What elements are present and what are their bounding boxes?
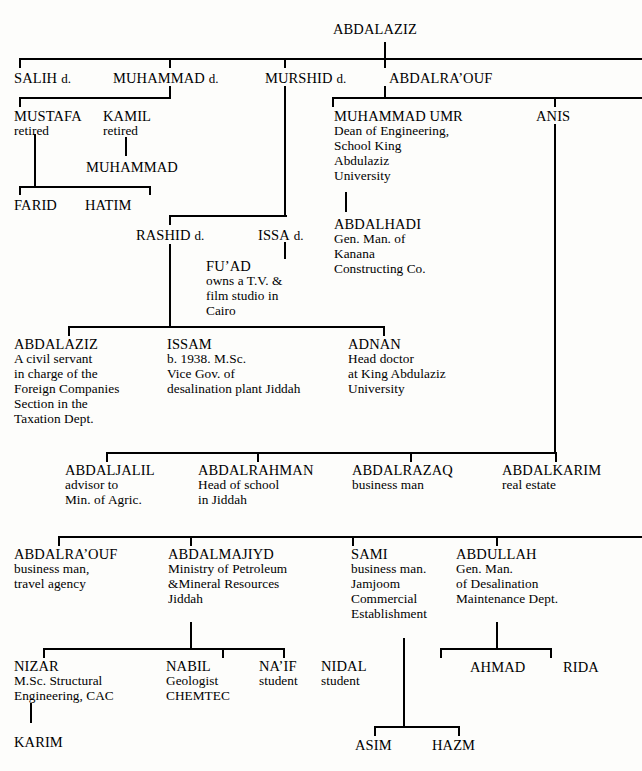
connector-mustafa-stem	[34, 134, 36, 186]
person-node-abdullah[interactable]: ABDULLAH Gen. Man. of Desalination Maint…	[456, 546, 558, 607]
connector-kamil-stem	[125, 137, 127, 156]
person-node-abdalaziz-g5[interactable]: ABDALAZIZ A civil servant in charge of t…	[14, 336, 119, 427]
person-node-abdaljalil[interactable]: ABDALJALIL advisor to Min. of Agric.	[65, 462, 155, 508]
connector-farid-drop	[19, 186, 21, 195]
person-description: advisor to Min. of Agric.	[65, 478, 155, 508]
connector-abdalraouf-g6-drop	[58, 536, 60, 546]
person-name: MURSHID	[265, 70, 333, 86]
person-node-fuad[interactable]: FU’AD owns a T.V. & film studio in Cairo	[206, 258, 282, 319]
connector-hazm-drop	[458, 726, 460, 736]
connector-murshid-stem	[284, 86, 286, 217]
person-name: NA’IF	[259, 658, 298, 674]
person-description: owns a T.V. & film studio in Cairo	[206, 274, 282, 319]
person-node-muhammad-g2[interactable]: MUHAMMAD d.	[113, 69, 219, 87]
connector-ahmad-rida-bar	[440, 648, 552, 650]
person-node-muhammad-umr[interactable]: MUHAMMAD UMR Dean of Engineering, School…	[334, 108, 463, 184]
person-name: MUHAMMAD UMR	[334, 108, 463, 124]
person-description: Gen. Man. of Desalination Maintenance De…	[456, 562, 558, 607]
person-description: retired	[103, 124, 151, 139]
person-node-abdalmajiyd[interactable]: ABDALMAJIYD Ministry of Petroleum &Miner…	[168, 546, 287, 607]
person-node-anis[interactable]: ANIS	[536, 108, 570, 124]
connector-nidal-drop	[283, 648, 285, 658]
person-node-abdalrazaq[interactable]: ABDALRAZAQ business man	[352, 462, 453, 493]
person-description: real estate	[502, 478, 601, 493]
person-name: ADNAN	[348, 336, 446, 352]
person-name: HAZM	[432, 737, 475, 753]
person-node-abdalraouf-g6[interactable]: ABDALRA’OUF business man, travel agency	[14, 546, 117, 592]
person-name: NABIL	[166, 658, 230, 674]
person-name: ABDALRA’OUF	[389, 70, 492, 86]
person-node-kamil[interactable]: KAMIL retired	[103, 108, 151, 139]
connector-rashid-stem	[169, 244, 171, 328]
person-description: A civil servant in charge of the Foreign…	[14, 352, 119, 426]
person-suffix: d.	[337, 71, 347, 86]
connector-gen2-bar	[19, 58, 642, 60]
person-name: ISSA	[258, 227, 290, 243]
connector-naif-drop	[222, 648, 224, 658]
person-name: RIDA	[563, 659, 599, 675]
person-node-asim[interactable]: ASIM	[355, 736, 392, 754]
connector-anis-stem	[554, 124, 556, 454]
person-description: Head doctor at King Abdulaziz University	[348, 352, 446, 397]
person-node-root[interactable]: ABDALAZIZ	[333, 20, 417, 38]
person-description: business man. Jamjoom Commercial Establi…	[351, 562, 427, 622]
person-name: SALIH	[14, 70, 57, 86]
connector-abdaljalil-drop	[106, 452, 108, 462]
person-name: ABDALAZIZ	[14, 336, 119, 352]
connector-muhammad-umr-drop	[332, 97, 334, 107]
person-node-hatim[interactable]: HATIM	[85, 196, 131, 214]
connector-rida-drop	[550, 648, 552, 658]
person-name: ABDALJALIL	[65, 462, 155, 478]
person-node-ahmad[interactable]: AHMAD	[470, 658, 525, 676]
connector-asim-hazm-bar	[374, 726, 460, 728]
connector-ahmad-drop	[440, 648, 442, 658]
person-description: Dean of Engineering, School King Abdulaz…	[334, 124, 463, 184]
person-name: ABDALRAZAQ	[352, 462, 453, 478]
person-node-abdalkarim[interactable]: ABDALKARIM real estate	[502, 462, 601, 493]
person-node-issa[interactable]: ISSA d.	[258, 226, 304, 244]
person-node-mustafa[interactable]: MUSTAFA retired	[14, 108, 82, 139]
person-name: ABDALRAHMAN	[198, 462, 314, 478]
person-name: ASIM	[355, 737, 392, 753]
person-name: KARIM	[14, 734, 63, 750]
person-node-muhammad-g4[interactable]: MUHAMMAD	[86, 158, 178, 176]
person-node-salih[interactable]: SALIH d.	[14, 69, 71, 87]
person-suffix: d.	[209, 71, 219, 86]
person-suffix: d.	[61, 71, 71, 86]
person-node-murshid[interactable]: MURSHID d.	[265, 69, 346, 87]
person-description: M.Sc. Structural Engineering, CAC	[14, 674, 114, 704]
person-node-farid[interactable]: FARID	[14, 196, 57, 214]
connector-gen5-bar	[68, 326, 385, 328]
person-name: FU’AD	[206, 258, 282, 274]
person-node-issam[interactable]: ISSAM b. 1938. M.Sc. Vice Gov. of desali…	[167, 336, 300, 397]
person-name: MUHAMMAD	[86, 159, 178, 175]
person-node-nizar[interactable]: NIZAR M.Sc. Structural Engineering, CAC	[14, 658, 114, 704]
person-node-nidal[interactable]: NIDAL student	[321, 658, 367, 689]
connector-abdalrahman-drop	[257, 452, 259, 462]
person-node-abdalrahman[interactable]: ABDALRAHMAN Head of school in Jiddah	[198, 462, 314, 508]
connector-mustafa-kamil-bar	[19, 97, 171, 99]
person-name: RASHID	[136, 227, 191, 243]
person-node-rashid[interactable]: RASHID d.	[136, 226, 204, 244]
person-node-naif[interactable]: NA’IF student	[259, 658, 298, 689]
connector-gen2-muhammad	[169, 58, 171, 68]
connector-gen7-bar	[58, 536, 642, 538]
person-node-rida[interactable]: RIDA	[563, 658, 599, 676]
person-node-abdalraouf-g2[interactable]: ABDALRA’OUF	[389, 69, 492, 87]
connector-abdullah-stem	[496, 622, 498, 650]
connector-hatim-drop	[149, 186, 151, 195]
person-node-abdalhadi[interactable]: ABDALHADI Gen. Man. of Kanana Constructi…	[334, 216, 426, 277]
person-node-sami[interactable]: SAMI business man. Jamjoom Commercial Es…	[351, 546, 427, 622]
person-name: MUHAMMAD	[113, 70, 205, 86]
connector-asim-drop	[374, 726, 376, 736]
person-node-hazm[interactable]: HAZM	[432, 736, 475, 754]
person-node-karim[interactable]: KARIM	[14, 733, 63, 751]
connector-gen2-murshid	[284, 58, 286, 68]
person-node-adnan[interactable]: ADNAN Head doctor at King Abdulaziz Univ…	[348, 336, 446, 397]
connector-abdalmajiyd-drop	[190, 536, 192, 546]
person-node-nabil[interactable]: NABIL Geologist CHEMTEC	[166, 658, 230, 704]
connector-nizar-drop	[43, 648, 45, 658]
connector-gen2-salih	[19, 58, 21, 68]
person-name: ISSAM	[167, 336, 300, 352]
connector-sami-stem	[403, 638, 405, 728]
